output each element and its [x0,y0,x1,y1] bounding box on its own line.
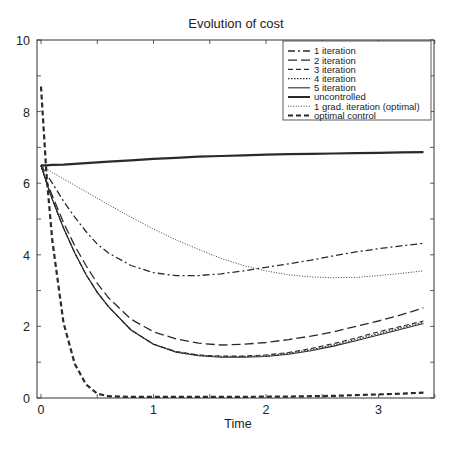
y-tick-label: 4 [23,249,30,263]
series-optimal-control [41,87,424,397]
y-tick-label: 8 [23,106,30,120]
y-tick-label: 2 [23,320,30,334]
x-tick-label: 3 [375,403,382,417]
y-tick-label: 6 [23,177,30,191]
y-tick-label: 10 [16,34,30,48]
series-uncontrolled [41,152,424,165]
x-tick-label: 1 [150,403,157,417]
series-4-iteration [41,165,424,356]
x-tick-label: 2 [263,403,270,417]
y-tick-label: 0 [23,392,30,406]
series-1-grad-iteration-optimal- [41,165,424,277]
cost-evolution-chart: Evolution of cost 01230246810 Time 1 ite… [0,0,454,450]
series-1-iteration [41,165,424,275]
x-axis-label: Time [224,417,251,431]
series-2-iteration [41,165,424,345]
legend-label: optimal control [314,110,376,121]
legend: 1 iteration2 iteration3 iteration4 itera… [283,41,431,121]
series-3-iteration [41,165,424,356]
series-5-iteration [41,165,424,357]
x-tick-label: 0 [38,403,45,417]
series-lines [41,87,424,397]
chart-title: Evolution of cost [188,16,284,31]
